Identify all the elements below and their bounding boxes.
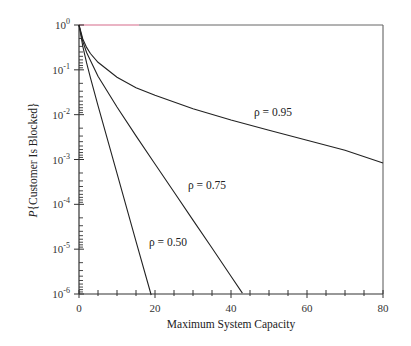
plot-frame: [79, 25, 383, 294]
curve-rho-050: [79, 25, 151, 295]
curve-label: ρ = 0.50: [149, 236, 187, 249]
y-tick-label: 10-5: [52, 241, 70, 255]
y-tick-label: 10-1: [52, 62, 70, 76]
x-tick-label: 0: [76, 302, 82, 314]
y-tick-label: 10-3: [52, 152, 70, 166]
x-axis-title: Maximum System Capacity: [167, 318, 296, 331]
y-tick-label: 100: [55, 17, 70, 31]
x-tick-label: 80: [378, 302, 390, 314]
blocking-probability-chart: 10010-110-210-310-410-510-6 020406080 ρ …: [0, 0, 411, 346]
curve-label: ρ = 0.75: [188, 179, 226, 192]
curve-rho-075: [79, 25, 242, 293]
curve-label: ρ = 0.95: [254, 106, 292, 119]
x-tick-label: 40: [226, 302, 238, 314]
y-axis-title: P{Customer Is Blocked}: [27, 102, 39, 218]
y-tick-label: 10-4: [52, 196, 70, 210]
x-tick-label: 60: [302, 302, 314, 314]
curves: [79, 25, 383, 295]
y-axis-title-text: {Customer Is Blocked}: [27, 102, 39, 210]
x-tick-label: 20: [150, 302, 162, 314]
curve-rho-095: [79, 25, 383, 163]
curve-labels: ρ = 0.95ρ = 0.75ρ = 0.50: [149, 106, 292, 249]
y-tick-label: 10-2: [52, 107, 70, 121]
y-tick-label: 10-6: [52, 286, 70, 300]
